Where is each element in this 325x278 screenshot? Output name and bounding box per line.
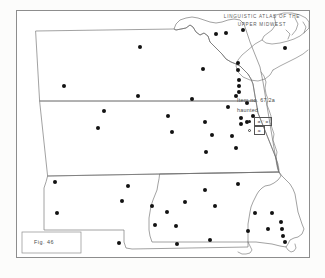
marker (190, 97, 194, 101)
marker (224, 31, 228, 35)
marker (165, 210, 169, 214)
marker (283, 46, 287, 50)
map-title-line-2: UPPER MIDWEST (216, 21, 308, 29)
marker (234, 146, 238, 150)
legend-keyword: haunted (237, 106, 307, 116)
state-minnesota (174, 17, 279, 172)
marker (170, 130, 174, 134)
legend-heading: Item no. 67.2a haunted (237, 96, 307, 115)
marker (210, 133, 214, 137)
marker (266, 227, 270, 231)
marker (214, 32, 218, 36)
marker (281, 234, 285, 238)
state-north-dakota (36, 25, 256, 101)
marker (253, 211, 257, 215)
legend-row-filled: ɑ ~ ɒ (248, 117, 272, 126)
marker (239, 116, 243, 120)
marker (226, 105, 230, 109)
marker (117, 241, 121, 245)
state-iowa (149, 172, 304, 247)
marker (280, 227, 284, 231)
marker (237, 84, 241, 88)
marker (138, 45, 142, 49)
missouri-river-boundary (238, 242, 296, 254)
open-circle-icon (248, 129, 251, 132)
legend-transcription-1: ɑ ~ ɒ (254, 117, 271, 126)
figure-label: Fig. 46 (34, 239, 54, 245)
marker (208, 238, 212, 242)
marker (175, 242, 179, 246)
filled-circle-icon (248, 120, 251, 123)
marker (120, 199, 124, 203)
marker (183, 200, 187, 204)
legend-row-open: æ (248, 126, 272, 135)
marker (236, 68, 240, 72)
marker (55, 211, 59, 215)
marker (174, 224, 178, 228)
marker (166, 114, 170, 118)
legend-transcription-2: æ (254, 126, 264, 135)
marker (203, 188, 207, 192)
state-nebraska (44, 172, 281, 249)
marker (270, 211, 274, 215)
marker (237, 90, 241, 94)
marker (236, 182, 240, 186)
data-markers (53, 28, 287, 246)
marker (102, 109, 106, 113)
map-graphic (0, 0, 325, 278)
marker (246, 229, 250, 233)
marker (236, 61, 240, 65)
marker (230, 134, 234, 138)
marker (153, 223, 157, 227)
marker (237, 78, 241, 82)
map-title-line-1: LINGUISTIC ATLAS OF THE (216, 13, 308, 21)
figure-container: LINGUISTIC ATLAS OF THE UPPER MIDWEST It… (0, 0, 325, 278)
marker (283, 240, 287, 244)
marker (204, 150, 208, 154)
marker (203, 120, 207, 124)
marker (136, 94, 140, 98)
marker (96, 126, 100, 130)
marker (279, 220, 283, 224)
marker (150, 204, 154, 208)
legend-key: ɑ ~ ɒ æ (248, 117, 272, 135)
marker (201, 67, 205, 71)
marker (239, 122, 243, 126)
marker (62, 84, 66, 88)
marker (126, 184, 130, 188)
marker (213, 204, 217, 208)
marker (53, 180, 57, 184)
legend-item-number: Item no. 67.2a (237, 96, 307, 106)
map-title: LINGUISTIC ATLAS OF THE UPPER MIDWEST (216, 13, 308, 29)
